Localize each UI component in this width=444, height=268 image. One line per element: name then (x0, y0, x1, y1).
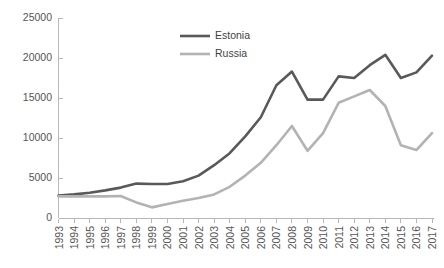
chart-plot-area: 0500010000150002000025000 19931994199519… (0, 0, 444, 268)
x-tick-label: 2002 (193, 226, 205, 250)
x-tick-label: 2013 (364, 226, 376, 250)
x-tick-label: 2017 (426, 226, 438, 250)
legend-label-estonia: Estonia (215, 29, 250, 41)
x-tick-label: 2003 (208, 226, 220, 250)
x-tick-label: 2005 (239, 226, 251, 250)
legend-label-russia: Russia (215, 47, 247, 59)
y-axis-tick-marks (59, 19, 64, 219)
x-tick-label: 2001 (177, 226, 189, 250)
x-tick-label: 2000 (161, 226, 173, 250)
x-tick-label: 2008 (286, 226, 298, 250)
y-tick-label: 10000 (23, 131, 52, 143)
x-tick-label: 1995 (84, 226, 96, 250)
y-tick-label: 25000 (23, 11, 52, 23)
x-tick-label: 2004 (224, 226, 236, 250)
x-tick-label: 1996 (99, 226, 111, 250)
x-tick-label: 2006 (255, 226, 267, 250)
x-tick-label: 2012 (348, 226, 360, 250)
x-tick-label: 2015 (395, 226, 407, 250)
y-tick-label: 0 (46, 211, 52, 223)
x-tick-label: 1998 (130, 226, 142, 250)
x-tick-label: 2011 (333, 226, 345, 249)
x-tick-label: 2007 (270, 226, 282, 250)
x-axis-tick-marks (59, 219, 433, 224)
chart-legend: EstoniaRussia (180, 29, 250, 59)
y-axis-tick-labels: 0500010000150002000025000 (23, 11, 52, 223)
x-tick-label: 1999 (146, 226, 158, 250)
x-tick-label: 1994 (68, 226, 80, 250)
x-axis-tick-labels: 1993199419951996199719981999200020012002… (53, 226, 439, 250)
y-tick-label: 20000 (23, 51, 52, 63)
data-series-group (59, 55, 433, 208)
line-chart: 0500010000150002000025000 19931994199519… (0, 0, 444, 268)
x-tick-label: 2014 (379, 226, 391, 250)
x-tick-label: 2016 (410, 226, 422, 250)
x-tick-label: 2010 (317, 226, 329, 250)
x-tick-label: 1997 (115, 226, 127, 250)
x-tick-label: 2009 (302, 226, 314, 250)
y-tick-label: 15000 (23, 91, 52, 103)
y-tick-label: 5000 (29, 171, 53, 183)
x-tick-label: 1993 (53, 226, 65, 250)
